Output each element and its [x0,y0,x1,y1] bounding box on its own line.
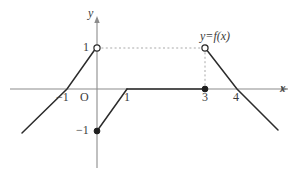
y-axis [94,16,99,168]
x-tick-label-4: 4 [233,91,239,103]
origin-label: O [80,91,89,103]
branch-middle-rising [97,89,127,131]
guide-lines [97,48,205,89]
plot-canvas [0,0,299,176]
y-axis-label: y [88,7,93,19]
x-tick-label-3: 3 [202,91,208,103]
function-graph-figure: y x O −1 1 3 4 1 −1 y=f(x) [0,0,299,176]
x-tick-label-1: 1 [124,91,130,103]
open-circle-0-1 [94,45,100,51]
curve-equation-label: y=f(x) [200,30,230,42]
y-tick-label-minus1: −1 [76,124,89,136]
x-tick-label-minus1: −1 [56,91,69,103]
y-tick-label-1: 1 [83,41,89,53]
y-axis-arrow [94,16,99,23]
open-circle-3-1 [202,45,208,51]
x-axis-label: x [280,82,285,94]
filled-dot-0-minus1 [94,128,100,134]
